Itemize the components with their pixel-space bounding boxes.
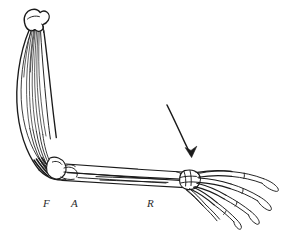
phalanx bbox=[206, 205, 220, 220]
phalanx bbox=[226, 195, 251, 211]
trochlea-line bbox=[61, 177, 74, 180]
muscle-medial-border bbox=[17, 30, 40, 170]
phalanx-joint bbox=[244, 173, 245, 178]
metacarpal-2-lower bbox=[198, 182, 230, 188]
motion-arrow-shaft bbox=[167, 105, 191, 155]
anatomy-figure: F A R bbox=[0, 0, 285, 232]
phalanx-tip bbox=[234, 219, 242, 229]
phalanx bbox=[232, 172, 263, 179]
humerus-head-outline bbox=[24, 9, 49, 31]
metacarpal-3-upper bbox=[197, 183, 226, 195]
motion-arrow-group[interactable] bbox=[167, 105, 197, 158]
label-a: A bbox=[71, 198, 78, 209]
phalanx-joint bbox=[235, 202, 237, 206]
label-f: F bbox=[43, 198, 50, 209]
hand-palmar-edge bbox=[186, 190, 203, 206]
forearm-crossing-line-2 bbox=[100, 180, 168, 182]
humerus-head-group bbox=[24, 9, 49, 32]
phalanx-joint bbox=[242, 189, 243, 194]
phalanx bbox=[230, 189, 257, 201]
phalanx-tip bbox=[248, 211, 259, 224]
upper-arm-group bbox=[17, 30, 57, 170]
upper-arm-lateral-border bbox=[44, 31, 57, 138]
label-r: R bbox=[147, 198, 154, 209]
radius-upper-edge bbox=[66, 164, 186, 172]
metacarpal-1-lower bbox=[198, 176, 232, 177]
phalanx-tip bbox=[258, 197, 272, 211]
phalanx bbox=[232, 176, 262, 183]
humeral-condyle bbox=[47, 157, 67, 179]
phalanx-tip bbox=[262, 179, 278, 192]
ulna-group bbox=[62, 172, 185, 188]
elbow-joint-group bbox=[47, 157, 78, 179]
phalanx bbox=[217, 203, 236, 220]
ulna-lower-edge bbox=[62, 180, 185, 187]
